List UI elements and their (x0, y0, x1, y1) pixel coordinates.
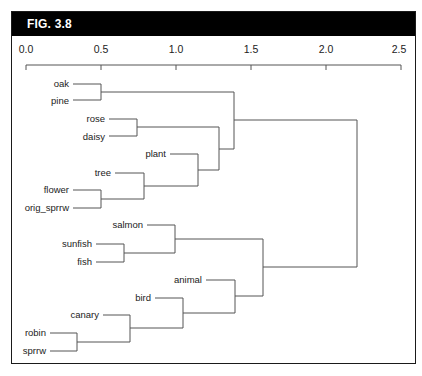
leaf-label-canary: canary (70, 309, 99, 320)
leaf-label-animal: animal (174, 274, 202, 285)
leaf-label-sprrw: sprrw (23, 345, 46, 356)
axis-line (26, 65, 401, 70)
leaf-label-orig-sprrw: orig_sprrw (25, 202, 69, 213)
tick-label: 1.0 (169, 43, 184, 55)
dendrogram: 0.0 0.5 1.0 1.5 2.0 2.5 oak pine rose da… (0, 0, 422, 376)
leaf-labels: oak pine rose daisy plant tree flower or… (23, 78, 202, 356)
tick-label: 0.0 (19, 43, 34, 55)
leaf-label-daisy: daisy (83, 131, 105, 142)
leaf-label-salmon: salmon (112, 219, 143, 230)
leaf-label-flower: flower (44, 184, 69, 195)
leaf-label-sunfish: sunfish (62, 238, 92, 249)
leaf-label-plant: plant (145, 148, 166, 159)
tick-label: 2.5 (392, 43, 407, 55)
leaf-label-bird: bird (135, 292, 151, 303)
leaf-label-pine: pine (51, 95, 69, 106)
axis-tick-labels: 0.0 0.5 1.0 1.5 2.0 2.5 (19, 43, 407, 55)
leaf-label-fish: fish (77, 256, 92, 267)
tick-label: 2.0 (319, 43, 334, 55)
leaf-label-rose: rose (87, 113, 105, 124)
leaf-label-robin: robin (25, 327, 46, 338)
tick-label: 1.5 (244, 43, 259, 55)
leaf-label-tree: tree (95, 167, 111, 178)
leaf-label-oak: oak (54, 78, 70, 89)
tick-label: 0.5 (94, 43, 109, 55)
